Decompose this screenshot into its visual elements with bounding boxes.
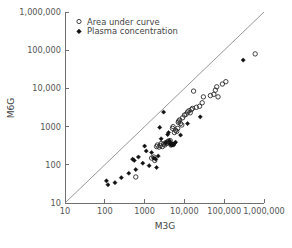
data-point-plasma-concentration	[198, 115, 202, 119]
data-point-area-under-curve	[201, 95, 205, 99]
legend-marker-open-circle	[77, 19, 81, 23]
data-point-plasma-concentration	[241, 58, 245, 62]
data-point-plasma-concentration	[150, 150, 154, 154]
y-tick-label: 100	[45, 160, 61, 170]
data-point-plasma-concentration	[147, 164, 151, 168]
data-point-plasma-concentration	[119, 176, 123, 180]
scatter-plot: 10100100010,000100,0001,000,000 10100100…	[0, 0, 292, 248]
y-tick-label: 100,000	[27, 45, 61, 55]
series-plasma-concentration	[104, 58, 245, 187]
x-axis-title: M3G	[155, 221, 175, 231]
data-point-plasma-concentration	[113, 181, 117, 185]
data-point-plasma-concentration	[156, 154, 160, 158]
legend-label-area-under-curve: Area under curve	[87, 17, 160, 27]
data-point-plasma-concentration	[134, 167, 138, 171]
data-point-plasma-concentration	[161, 110, 165, 114]
data-point-plasma-concentration	[158, 125, 162, 129]
y-tick-label: 10,000	[32, 83, 61, 93]
data-point-plasma-concentration	[106, 183, 110, 187]
data-point-plasma-concentration	[159, 137, 163, 141]
data-point-area-under-curve	[216, 95, 220, 99]
data-point-plasma-concentration	[144, 149, 148, 153]
data-point-area-under-curve	[253, 52, 257, 56]
y-axis-title: M6G	[6, 98, 16, 118]
y-tick-label: 1,000,000	[19, 7, 61, 17]
data-point-area-under-curve	[200, 101, 204, 105]
data-point-area-under-curve	[134, 175, 138, 179]
data-point-plasma-concentration	[104, 179, 108, 183]
y-axis-ticks: 10100100010,000100,0001,000,000	[19, 7, 69, 208]
data-point-plasma-concentration	[154, 165, 158, 169]
x-tick-label: 1000	[134, 206, 155, 216]
x-tick-label: 10	[60, 206, 70, 216]
identity-line	[65, 12, 264, 203]
x-tick-label: 10,000	[170, 206, 199, 216]
series-area-under-curve	[134, 52, 258, 179]
legend: Area under curve Plasma concentration	[77, 17, 178, 37]
legend-marker-filled-diamond	[77, 29, 82, 34]
data-point-area-under-curve	[191, 89, 195, 93]
x-axis-ticks: 10100100010,000100,0001,000,000	[60, 199, 285, 216]
y-tick-label: 1000	[40, 122, 61, 132]
data-point-area-under-curve	[224, 79, 228, 83]
data-point-plasma-concentration	[141, 161, 145, 165]
data-point-plasma-concentration	[143, 144, 147, 148]
figure-container: 10100100010,000100,0001,000,000 10100100…	[0, 0, 292, 248]
legend-label-plasma-concentration: Plasma concentration	[87, 26, 178, 36]
x-tick-label: 100,000	[207, 206, 241, 216]
data-point-plasma-concentration	[127, 171, 131, 175]
x-tick-label: 100	[97, 206, 113, 216]
x-tick-label: 1,000,000	[243, 206, 285, 216]
data-point-plasma-concentration	[178, 133, 182, 137]
data-point-plasma-concentration	[185, 121, 189, 125]
data-point-plasma-concentration	[136, 155, 140, 159]
